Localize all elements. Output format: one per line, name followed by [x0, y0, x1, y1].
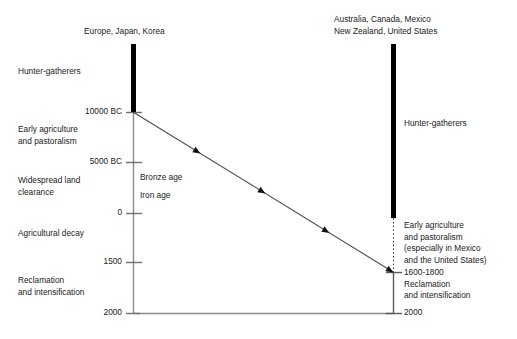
left-column-heading: Europe, Japan, Korea — [84, 26, 165, 38]
axis-tick-label-10000bc: 10000 BC — [48, 106, 122, 118]
right-phase-hunter-gatherers: Hunter-gatherers — [404, 118, 467, 130]
right-phase-reclamation-intensification: 1600-1800 Reclamation and intensificatio… — [404, 267, 470, 302]
left-phase-reclamation-intensification: Reclamation and intensification — [18, 275, 84, 298]
left-phase-hunter-gatherers: Hunter-gatherers — [18, 66, 81, 78]
midlabel-bronze-age: Bronze age — [140, 172, 182, 184]
axis-tick-label-1500: 1500 — [48, 256, 122, 268]
arrow-marker-3 — [321, 226, 331, 235]
arrow-marker-2 — [257, 187, 267, 196]
arrow-marker-1 — [192, 147, 202, 156]
right-phase-early-agriculture: Early agriculture and pastoralism (espec… — [404, 220, 487, 266]
diagram-canvas: Europe, Japan, Korea Australia, Canada, … — [0, 0, 517, 339]
left-phase-early-agriculture: Early agriculture and pastoralism — [18, 124, 78, 147]
midlabel-iron-age: Iron age — [140, 190, 170, 202]
left-phase-widespread-land-clearance: Widespread land clearance — [18, 175, 80, 198]
axis-tick-label-2000-right: 2000 — [404, 307, 422, 319]
right-column-heading: Australia, Canada, Mexico New Zealand, U… — [334, 14, 437, 37]
axis-tick-label-2000-left: 2000 — [48, 307, 122, 319]
axis-tick-label-5000bc: 5000 BC — [48, 156, 122, 168]
axis-tick-label-0: 0 — [48, 207, 122, 219]
left-phase-agricultural-decay: Agricultural decay — [18, 228, 84, 240]
